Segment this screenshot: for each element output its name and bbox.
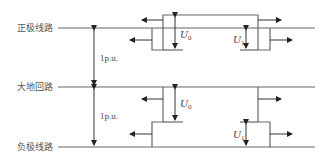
u0-label-lower: U0 <box>180 97 192 111</box>
u0-label-upper: U0 <box>180 28 192 42</box>
traveling-wave-diagram: 正极线路 大地回路 负极线路 1p.u. 1p.u. U0 U1 <box>0 0 333 159</box>
u1-label-lower: U1 <box>233 128 245 142</box>
pu-label-upper: 1p.u. <box>100 53 118 63</box>
ground-return-label: 大地回路 <box>17 81 53 92</box>
u1-label-upper: U1 <box>233 33 245 47</box>
negative-line-label: 负极线路 <box>17 141 53 152</box>
pu-label-lower: 1p.u. <box>100 111 118 121</box>
positive-line-waveform: U0 U1 <box>130 15 292 50</box>
ground-line-waveform: U0 U1 <box>130 87 292 147</box>
positive-line-label: 正极线路 <box>17 22 53 33</box>
